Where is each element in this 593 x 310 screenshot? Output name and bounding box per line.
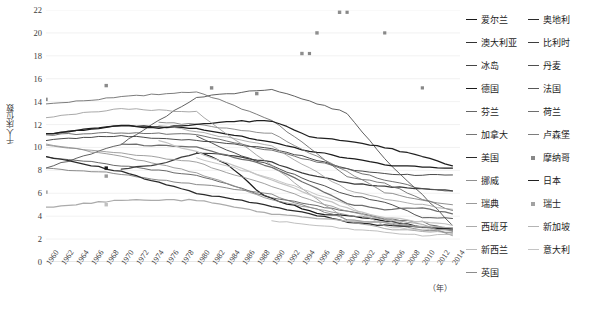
legend-item[interactable]: 荷兰 [528,100,588,123]
legend-swatch-icon [528,111,539,112]
legend-swatch-icon [466,203,477,204]
legend-swatch-icon [466,157,477,158]
y-axis-tick: 8 [38,166,42,175]
legend-swatch-icon [528,180,539,181]
legend-item-label: 芬兰 [481,107,499,117]
legend-item[interactable]: 新西兰 [466,238,526,261]
legend-item-label: 卢森堡 [543,130,570,140]
legend-item[interactable]: 爱尔兰 [466,8,526,31]
legend-item[interactable]: 日本 [528,169,588,192]
legend-item[interactable]: 西班牙 [466,215,526,238]
legend-item[interactable]: 卢森堡 [528,123,588,146]
series-canvas [46,10,460,262]
legend-swatch-icon [528,88,539,89]
x-axis-unit-label: （年） [428,282,452,293]
scatter-point [315,31,318,34]
legend-item-label: 冰岛 [481,61,499,71]
legend-item-label: 新加坡 [543,222,570,232]
legend-item[interactable]: 挪威 [466,169,526,192]
legend-item[interactable]: 德国 [466,77,526,100]
hospital-beds-line-chart: 千人床位数 0246810121416182022 19601962196419… [0,0,593,310]
legend-swatch-icon [466,249,477,250]
legend-column-1: 爱尔兰澳大利亚冰岛德国芬兰加拿大美国挪威瑞典西班牙新西兰英国 [466,8,526,284]
legend-item[interactable]: 美国 [466,146,526,169]
y-axis-tick: 16 [34,75,43,84]
legend-swatch-icon [528,156,539,160]
legend-item[interactable]: 英国 [466,261,526,284]
y-axis-tick: 18 [34,52,43,61]
scatter-point [105,203,108,206]
scatter-point [46,190,48,193]
y-axis-tick: 14 [34,98,43,107]
y-axis-tick: 10 [34,143,43,152]
legend-swatch-icon [528,65,539,66]
legend-swatch-icon [528,42,539,43]
legend-item[interactable]: 冰岛 [466,54,526,77]
legend-item[interactable]: 新加坡 [528,215,588,238]
legend-item[interactable]: 加拿大 [466,123,526,146]
legend-swatch-icon [466,111,477,112]
series-marker [308,52,311,55]
legend-item-label: 丹麦 [543,61,561,71]
series-marker [421,86,424,89]
legend-item-label: 美国 [481,153,499,163]
legend-swatch-icon [466,65,477,66]
scatter-point [105,84,108,87]
legend-item[interactable]: 意大利 [528,238,588,261]
legend-swatch-icon [466,134,477,135]
scatter-point [210,86,213,89]
legend-item[interactable]: 澳大利亚 [466,31,526,54]
series-line [46,92,452,211]
y-axis-tick: 6 [38,189,42,198]
scatter-point [255,92,258,95]
legend-swatch-icon [466,88,477,89]
legend-item-label: 澳大利亚 [481,38,517,48]
legend-column-2: 奥地利比利时丹麦法国荷兰卢森堡摩纳哥日本瑞士新加坡意大利 [528,8,588,261]
legend-swatch-icon [466,180,477,181]
legend-item[interactable]: 比利时 [528,31,588,54]
legend-swatch-icon [466,19,477,20]
legend-item-label: 爱尔兰 [481,15,508,25]
legend-item[interactable]: 摩纳哥 [528,146,588,169]
chart-legend: 爱尔兰澳大利亚冰岛德国芬兰加拿大美国挪威瑞典西班牙新西兰英国 奥地利比利时丹麦法… [466,8,592,280]
legend-item-label: 挪威 [481,176,499,186]
series-marker [345,11,348,14]
legend-item-label: 奥地利 [543,15,570,25]
scatter-point [46,98,48,101]
legend-swatch-icon [528,249,539,250]
legend-item-label: 西班牙 [481,222,508,232]
plot-area [46,10,460,262]
series-line [159,126,453,210]
legend-swatch-icon [466,226,477,227]
legend-swatch-icon [528,202,539,206]
legend-item-label: 瑞士 [543,199,561,209]
legend-swatch-icon [528,226,539,227]
legend-item-label: 日本 [543,176,561,186]
legend-item-label: 荷兰 [543,107,561,117]
legend-item[interactable]: 瑞士 [528,192,588,215]
legend-swatch-icon [528,134,539,135]
legend-swatch-icon [466,42,477,43]
series-marker [383,31,386,34]
scatter-point [105,174,108,177]
scatter-point [105,166,108,169]
legend-item[interactable]: 丹麦 [528,54,588,77]
legend-item[interactable]: 芬兰 [466,100,526,123]
legend-item[interactable]: 奥地利 [528,8,588,31]
legend-swatch-icon [466,272,477,273]
legend-item[interactable]: 瑞典 [466,192,526,215]
y-axis-tick: 20 [34,29,43,38]
legend-item-label: 瑞典 [481,199,499,209]
x-axis-tick-labels: 1960196219641966196819701972197419761978… [46,262,460,308]
legend-item-label: 意大利 [543,245,570,255]
y-axis-tick-labels: 0246810121416182022 [0,0,46,262]
scatter-point [338,11,341,14]
y-axis-tick: 22 [34,6,43,15]
y-axis-tick: 12 [34,121,43,130]
y-axis-tick: 4 [38,212,42,221]
legend-item-label: 摩纳哥 [543,153,570,163]
legend-item[interactable]: 法国 [528,77,588,100]
legend-item-label: 比利时 [543,38,570,48]
legend-item-label: 英国 [481,268,499,278]
legend-item-label: 德国 [481,84,499,94]
